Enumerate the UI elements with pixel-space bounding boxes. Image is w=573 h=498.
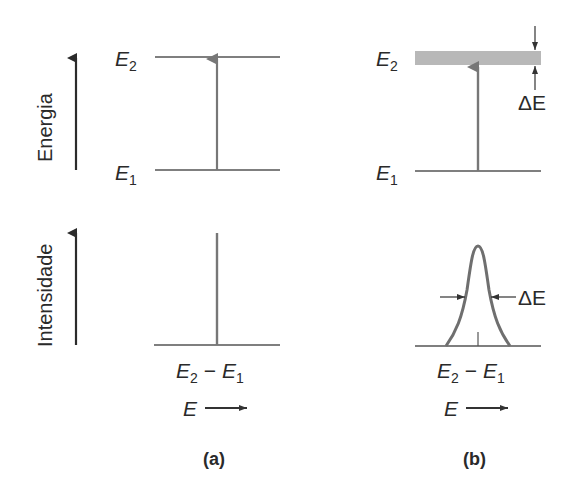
energy-axis: Energia — [34, 58, 76, 170]
panel-b-e1-label: E1 — [376, 161, 398, 188]
energy-level-diagram: Energia Intensidade E2 E1 E2−E1 E (a) — [0, 0, 573, 498]
panel-b-upper-level-band — [415, 51, 541, 65]
panel-b: E2 E1 ΔE ΔE E2−E1 E (b) — [376, 26, 546, 469]
panel-b-transition-energy-label: E2−E1 — [437, 359, 505, 386]
intensity-axis: Intensidade — [34, 233, 76, 347]
panel-a-caption: (a) — [203, 449, 225, 469]
panel-b-linewidth-label: ΔE — [518, 286, 546, 309]
panel-b-caption: (b) — [463, 449, 486, 469]
panel-b-energy-axis-label: E — [444, 397, 459, 420]
panel-a-transition-energy-label: E2−E1 — [176, 359, 244, 386]
panel-b-lineshape-curve — [446, 246, 510, 346]
panel-b-e2-label: E2 — [376, 47, 398, 74]
panel-b-band-width-label: ΔE — [518, 91, 546, 114]
panel-a-energy-axis-label: E — [183, 397, 198, 420]
intensity-axis-label: Intensidade — [34, 244, 56, 347]
panel-a: E2 E1 E2−E1 E (a) — [115, 47, 280, 469]
panel-a-e2-label: E2 — [115, 47, 137, 74]
energy-axis-label: Energia — [34, 92, 56, 162]
panel-a-e1-label: E1 — [115, 161, 137, 188]
